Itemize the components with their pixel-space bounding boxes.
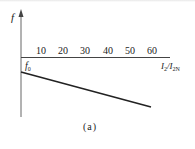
y-axis-arrow-icon [19,9,24,17]
x-tick-label: 30 [80,46,90,56]
data-line-f [21,72,151,107]
chart-canvas [0,0,195,149]
x-tick-label: 50 [125,46,135,56]
x-tick-label: 60 [147,46,157,56]
y-axis-label: f [11,12,14,23]
intercept-label-sub: 0 [28,66,31,72]
x-tick-label: 20 [58,46,68,56]
x-tick-label: 40 [103,46,113,56]
x-axis-label: I2/I2N [161,62,180,72]
x-tick-label: 10 [36,46,46,56]
figure-caption: (a) [83,122,97,132]
intercept-label: f0 [25,61,31,72]
x-axis-label-sub2: 2N [173,66,180,72]
